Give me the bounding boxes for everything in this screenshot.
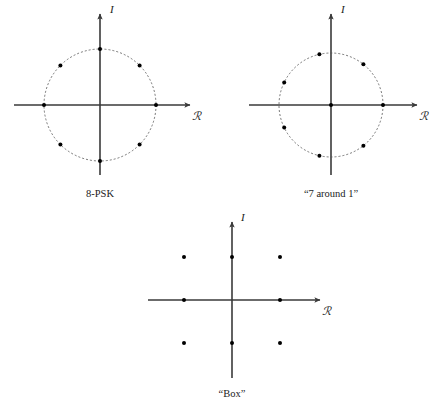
caption-8psk: 8-PSK: [86, 188, 114, 199]
panel-8psk: I ℛ 8-PSK: [14, 3, 202, 199]
constellation-point: [42, 103, 46, 107]
constellation-canvas: I ℛ 8-PSK I ℛ “7 around 1”: [0, 0, 437, 413]
panel-box: I ℛ “Box”: [148, 211, 332, 399]
constellation-point: [278, 341, 282, 345]
caption-seven-around-one: “7 around 1”: [304, 188, 359, 199]
constellation-point: [138, 63, 142, 67]
imag-axis-label-box: I: [240, 211, 246, 223]
constellation-point: [98, 47, 102, 51]
constellation-point: [317, 52, 321, 56]
constellation-point: [98, 159, 102, 163]
constellation-point: [361, 144, 365, 148]
constellation-point: [282, 80, 286, 84]
constellation-point: [154, 103, 158, 107]
constellation-point: [282, 126, 286, 130]
constellation-figure: I ℛ 8-PSK I ℛ “7 around 1”: [0, 0, 437, 413]
constellation-point: [381, 103, 385, 107]
constellation-point: [230, 341, 234, 345]
constellation-point: [182, 341, 186, 345]
constellation-point: [58, 143, 62, 147]
real-axis-label-8psk: ℛ: [192, 110, 202, 122]
real-axis-label-seven-around-one: ℛ: [419, 110, 429, 122]
real-axis-label-box: ℛ: [322, 305, 332, 317]
caption-box: “Box”: [219, 388, 246, 399]
imag-axis-label-seven-around-one: I: [340, 3, 346, 15]
panel-seven-around-one: I ℛ “7 around 1”: [249, 3, 429, 199]
constellation-point: [230, 255, 234, 259]
constellation-point-origin: [329, 103, 333, 107]
constellation-point: [278, 298, 282, 302]
constellation-point: [182, 255, 186, 259]
constellation-point: [138, 143, 142, 147]
constellation-point: [317, 154, 321, 158]
imag-axis-label-8psk: I: [109, 3, 115, 15]
constellation-point: [58, 63, 62, 67]
constellation-point: [278, 255, 282, 259]
constellation-point: [182, 298, 186, 302]
constellation-point: [361, 62, 365, 66]
